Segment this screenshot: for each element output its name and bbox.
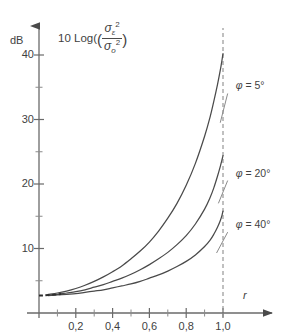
leader-line (220, 93, 227, 122)
x-tick-label: 1,0 (208, 321, 238, 332)
x-tick-label: 0,4 (98, 321, 128, 332)
formula-numerator: σε2 (102, 21, 122, 37)
leader-line (217, 232, 228, 253)
x-tick-label: 0,6 (134, 321, 164, 332)
y-tick-label: 20 (12, 178, 34, 189)
sigma-epsilon-subscript: ε (112, 28, 116, 37)
curve-group (48, 54, 223, 296)
curve-label-20deg: φ = 20° (236, 168, 271, 179)
curve-label-5deg: φ = 5° (236, 80, 265, 91)
y-axis-unit-label: dB (10, 35, 23, 46)
x-axis-label: r (243, 290, 247, 301)
x-tick-label: 0,2 (61, 321, 91, 332)
y-tick-label: 30 (12, 114, 34, 125)
curve-20deg (48, 156, 223, 295)
formula-close-paren: ) (122, 31, 127, 48)
x-tick-label: 0,8 (171, 321, 201, 332)
sigma-o-exponent: 2 (116, 38, 120, 47)
curve-5deg (48, 54, 223, 295)
y-tick-label: 40 (12, 49, 34, 60)
sigma-epsilon-exponent: 2 (115, 20, 119, 29)
formula-prefix: 10 Log( (58, 32, 97, 44)
sigma-o-subscript: o (111, 46, 115, 55)
chart-container: dB 10 Log((σε2σo2) r 102030400,20,40,60,… (0, 0, 282, 336)
sigma-epsilon-symbol: σ (104, 21, 111, 35)
formula-denominator: σo2 (102, 38, 122, 55)
curve-label-40deg: φ = 40° (236, 219, 271, 230)
curve-40deg (48, 211, 223, 295)
y-axis-formula-label: 10 Log((σε2σo2) (58, 22, 127, 56)
formula-fraction: σε2σo2 (102, 21, 122, 55)
y-tick-label: 10 (12, 243, 34, 254)
